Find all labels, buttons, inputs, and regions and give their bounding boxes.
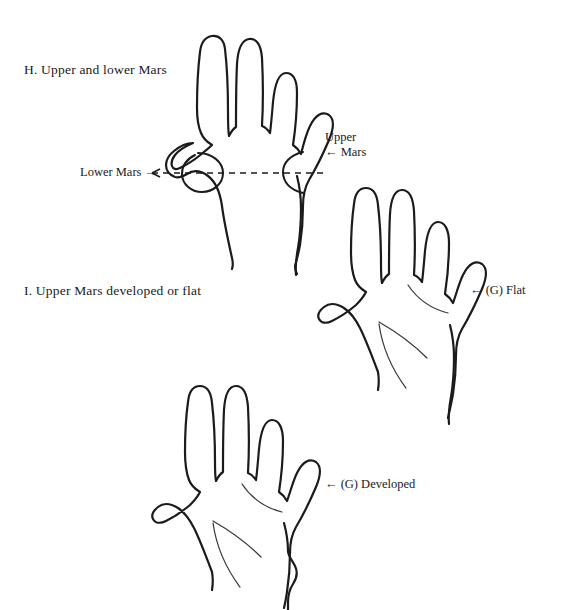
life-line-developed xyxy=(213,523,240,587)
hand-outline-developed xyxy=(152,386,320,608)
label-upper-mars: Upper ← Mars xyxy=(325,130,366,160)
hand-outline-top xyxy=(166,36,333,274)
heart-line-flat xyxy=(408,285,448,313)
life-line-flat xyxy=(379,324,406,388)
caption-section-i: I. Upper Mars developed or flat xyxy=(24,283,201,299)
label-upper-mars-line2: ← Mars xyxy=(325,145,366,160)
hand-upper-mars-flat xyxy=(318,188,486,424)
hand-outline-flat-percussion xyxy=(449,325,454,424)
hand-upper-and-lower-mars xyxy=(152,36,333,275)
palmistry-figure: H. Upper and lower Mars I. Upper Mars de… xyxy=(0,0,565,610)
caption-section-h: H. Upper and lower Mars xyxy=(24,62,167,78)
label-g-developed: ← (G) Developed xyxy=(325,477,415,492)
hand-upper-mars-developed xyxy=(152,386,320,610)
label-upper-mars-line1: Upper xyxy=(325,130,366,145)
figure-canvas xyxy=(0,0,565,610)
heart-line-developed xyxy=(242,484,282,512)
label-g-flat: ← (G) Flat xyxy=(470,283,526,298)
label-lower-mars: Lower Mars → xyxy=(80,165,157,180)
